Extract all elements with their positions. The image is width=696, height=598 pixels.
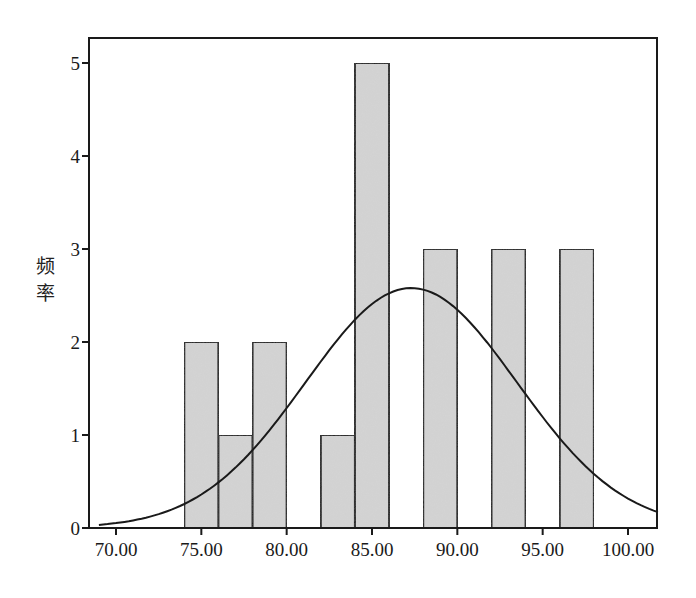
y-tick-label: 4 — [71, 146, 81, 167]
x-tick-label: 80.00 — [265, 539, 308, 560]
x-axis: 70.0075.0080.0085.0090.0095.00100.00 — [95, 528, 655, 560]
svg-text:频: 频 — [36, 255, 55, 277]
svg-text:率: 率 — [36, 282, 55, 304]
x-tick-label: 95.00 — [521, 539, 564, 560]
x-tick-label: 90.00 — [436, 539, 479, 560]
x-tick-label: 100.00 — [602, 539, 654, 560]
histogram-bar — [560, 249, 594, 528]
x-tick-label: 70.00 — [95, 539, 138, 560]
y-tick-label: 0 — [71, 518, 81, 539]
histogram-bar — [184, 342, 218, 528]
y-tick-label: 3 — [71, 239, 81, 260]
histogram-bar — [321, 435, 355, 528]
y-tick-label: 1 — [71, 425, 81, 446]
y-axis-label: 频 率 — [36, 255, 55, 304]
x-tick-label: 85.00 — [351, 539, 394, 560]
histogram-chart: 012345 70.0075.0080.0085.0090.0095.00100… — [0, 0, 696, 598]
x-tick-label: 75.00 — [180, 539, 223, 560]
histogram-bar — [253, 342, 287, 528]
histogram-bar — [218, 435, 252, 528]
y-tick-label: 2 — [71, 332, 81, 353]
y-axis: 012345 — [71, 53, 90, 539]
y-tick-label: 5 — [71, 53, 81, 74]
